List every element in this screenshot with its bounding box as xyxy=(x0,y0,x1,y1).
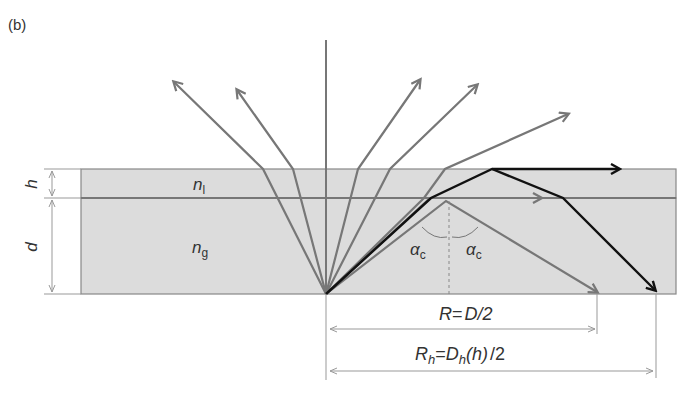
layer-stack xyxy=(81,169,676,294)
R-formula-label: R=D/2 xyxy=(439,304,493,324)
panel-label: (b) xyxy=(8,16,26,33)
waveguide-ray-diagram: (b) h d nl ng xyxy=(0,0,697,397)
Rh-formula-label: Rh=Dh(h)/2 xyxy=(415,344,505,367)
radius-dimensions: R=D/2 Rh=Dh(h)/2 xyxy=(326,294,656,380)
h-label: h xyxy=(22,179,41,188)
d-label: d xyxy=(22,242,41,252)
thickness-dimensions: h d xyxy=(22,169,81,294)
